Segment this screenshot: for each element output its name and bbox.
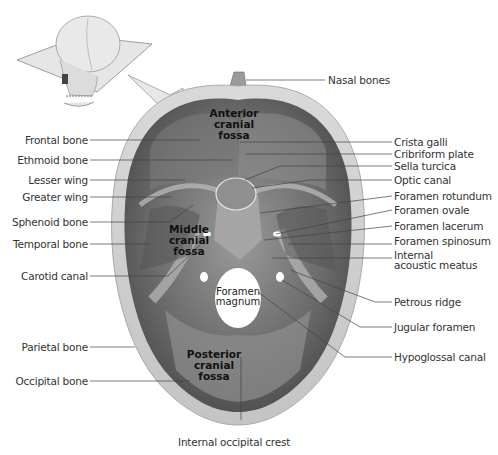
label-jugular-foramen: Jugular foramen [394, 321, 475, 333]
region-line: fossa [158, 246, 220, 257]
cranial-floor-diagram: Anterior cranial fossa Middle cranial fo… [0, 0, 498, 455]
label-cribriform-plate: Cribriform plate [394, 148, 474, 160]
label-frontal-bone: Frontal bone [25, 134, 88, 146]
label-lesser-wing: Lesser wing [28, 174, 88, 186]
nasal-bones-shape [230, 72, 246, 86]
foramen-magnum-label: Foramen magnum [210, 287, 266, 307]
region-line: fossa [195, 130, 273, 141]
region-line: magnum [210, 297, 266, 307]
label-internal-acoustic-meatus: Internal acoustic meatus [394, 250, 477, 270]
label-ethmoid-bone: Ethmoid bone [17, 154, 88, 166]
label-foramen-lacerum: Foramen lacerum [394, 220, 483, 232]
label-foramen-ovale: Foramen ovale [394, 204, 469, 216]
label-line: acoustic meatus [394, 260, 477, 270]
label-greater-wing: Greater wing [22, 191, 88, 203]
region-line: fossa [175, 371, 253, 382]
skull-inset-icon [17, 16, 152, 106]
posterior-cranial-fossa-label: Posterior cranial fossa [175, 349, 253, 382]
label-foramen-spinosum: Foramen spinosum [394, 235, 491, 247]
label-occipital-bone: Occipital bone [15, 375, 88, 387]
label-carotid-canal: Carotid canal [21, 270, 88, 282]
label-crista-galli: Crista galli [394, 136, 447, 148]
label-sella-turcica: Sella turcica [394, 160, 456, 172]
label-internal-occipital-crest: Internal occipital crest [178, 436, 290, 448]
middle-cranial-fossa-label: Middle cranial fossa [158, 224, 220, 257]
label-nasal-bones: Nasal bones [328, 74, 390, 86]
label-foramen-rotundum: Foramen rotundum [394, 190, 492, 202]
sella-turcica-outline [216, 178, 256, 210]
label-hypoglossal-canal: Hypoglossal canal [394, 351, 486, 363]
label-optic-canal: Optic canal [394, 174, 451, 186]
label-parietal-bone: Parietal bone [22, 341, 88, 353]
label-sphenoid-bone: Sphenoid bone [12, 216, 88, 228]
label-temporal-bone: Temporal bone [13, 238, 88, 250]
anterior-cranial-fossa-label: Anterior cranial fossa [195, 108, 273, 141]
label-petrous-ridge: Petrous ridge [394, 296, 461, 308]
